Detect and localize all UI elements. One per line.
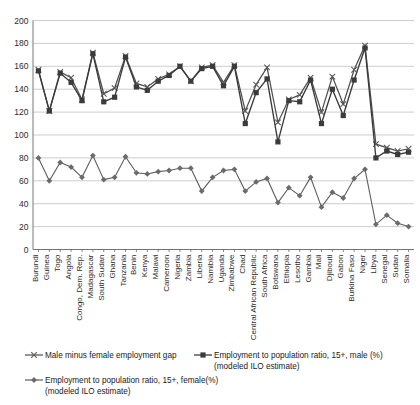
x-tick-label: Zimbabwe <box>227 254 236 291</box>
square-marker <box>286 98 291 103</box>
x-tick-label: Madagascar <box>86 254 95 298</box>
x-tick-label: Senegal <box>380 254 389 284</box>
x-tick-label: Central African Republic <box>249 255 258 341</box>
legend-label-female-sub: (modeled ILO estimate) <box>45 387 131 396</box>
x-tick-label: Djibouti <box>325 254 334 281</box>
square-marker <box>101 99 106 104</box>
x-tick-label: Namibia <box>206 254 215 284</box>
x-tick-label: Togo <box>53 254 62 272</box>
x-tick-label: Gambia <box>304 254 313 283</box>
x-tick-label: Gabon <box>336 255 345 279</box>
x-tick-label: Libya <box>369 254 378 274</box>
x-tick-label: Burkina Faso <box>347 254 356 302</box>
x-tick-label: Nigeria <box>173 254 182 280</box>
x-tick-label: Sudan <box>391 255 400 278</box>
chart-container: 020406080100120140160180200BurundiGuinea… <box>0 0 420 405</box>
y-tick-label: 0 <box>24 245 29 255</box>
square-marker <box>341 113 346 118</box>
x-tick-label: Burundi <box>31 254 40 282</box>
y-tick-label: 200 <box>14 16 28 26</box>
square-marker <box>373 155 378 160</box>
x-tick-label: Niger <box>358 254 367 273</box>
x-tick-label: South Africa <box>260 254 269 298</box>
diamond-marker <box>166 168 172 174</box>
square-marker <box>112 95 117 100</box>
y-tick-label: 60 <box>19 176 29 186</box>
square-marker <box>58 71 63 76</box>
x-tick-label: Somalia <box>402 254 411 283</box>
square-marker <box>319 121 324 126</box>
x-tick-label: Mali <box>314 254 323 269</box>
series-3 <box>36 153 412 230</box>
y-tick-label: 140 <box>14 84 28 94</box>
x-category-labels: BurundiGuineaTogoAngolaCongo, Dem. Rep.M… <box>31 250 410 341</box>
chart-legend: Male minus female employment gapEmployme… <box>25 351 383 396</box>
employment-gap-line-chart: 020406080100120140160180200BurundiGuinea… <box>0 0 420 405</box>
square-marker <box>210 64 215 69</box>
square-marker <box>69 80 74 85</box>
diamond-marker <box>31 377 37 383</box>
gridlines: 020406080100120140160180200 <box>14 16 414 255</box>
square-marker <box>134 84 139 89</box>
legend-label-male-sub: (modeled ILO estimate) <box>214 362 300 371</box>
x-tick-label: Congo, Dem. Rep. <box>75 255 84 321</box>
square-marker <box>297 99 302 104</box>
x-tick-label: Guinea <box>42 254 51 280</box>
legend-label-female: Employment to population ratio, 15+, fem… <box>45 376 218 385</box>
square-marker <box>200 352 205 357</box>
square-marker <box>330 87 335 92</box>
square-marker <box>221 83 226 88</box>
diamond-marker <box>155 169 161 175</box>
square-marker <box>308 77 313 82</box>
square-marker <box>384 148 389 153</box>
diamond-marker <box>406 224 412 230</box>
series-line <box>38 156 408 227</box>
square-marker <box>166 73 171 78</box>
square-marker <box>145 88 150 93</box>
x-tick-label: Cameroon <box>162 255 171 292</box>
diamond-marker <box>308 174 314 180</box>
diamond-marker <box>144 171 150 177</box>
square-marker <box>156 79 161 84</box>
square-marker <box>177 64 182 69</box>
x-tick-label: Botswana <box>271 254 280 290</box>
diamond-marker <box>221 168 227 174</box>
diamond-marker <box>188 165 194 171</box>
x-tick-label: Zambia <box>184 254 193 281</box>
diamond-marker <box>340 195 346 201</box>
x-tick-label: Lesotho <box>293 254 302 283</box>
square-marker <box>199 66 204 71</box>
square-marker <box>243 121 248 126</box>
y-tick-label: 180 <box>14 38 28 48</box>
square-marker <box>275 139 280 144</box>
square-marker <box>352 77 357 82</box>
square-marker <box>254 90 259 95</box>
square-marker <box>406 150 411 155</box>
diamond-marker <box>112 174 118 180</box>
square-marker <box>188 79 193 84</box>
y-tick-label: 160 <box>14 61 28 71</box>
x-tick-label: Tanzania <box>119 254 128 287</box>
x-tick-label: Kenya <box>140 254 149 277</box>
x-tick-label: Ghana <box>108 254 117 279</box>
square-marker <box>123 55 128 60</box>
diamond-marker <box>46 178 52 184</box>
square-marker <box>395 152 400 157</box>
legend-label-male: Employment to population ratio, 15+, mal… <box>214 351 383 360</box>
x-tick-label: Ethiopia <box>282 254 291 283</box>
y-tick-label: 100 <box>14 130 28 140</box>
diamond-marker <box>231 166 237 172</box>
diamond-marker <box>177 165 183 171</box>
square-marker <box>79 98 84 103</box>
x-tick-label: Chad <box>238 255 247 274</box>
legend-label-gap: Male minus female employment gap <box>45 351 177 360</box>
x-tick-label: Liberia <box>195 254 204 279</box>
y-tick-label: 40 <box>19 199 29 209</box>
square-marker <box>362 45 367 50</box>
square-marker <box>47 108 52 113</box>
x-tick-label: Uganda <box>217 254 226 283</box>
square-marker <box>90 51 95 56</box>
y-tick-label: 80 <box>19 153 29 163</box>
square-marker <box>232 64 237 69</box>
x-tick-label: Benin <box>129 255 138 275</box>
